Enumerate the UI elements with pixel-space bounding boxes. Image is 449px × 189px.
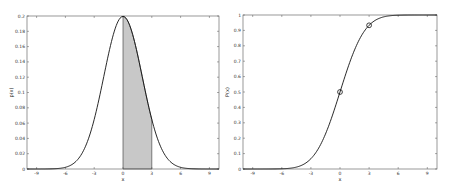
pdf-plot: -9-6-3036900.020.040.060.080.10.120.140.… [8, 14, 219, 183]
y-tick-label: 0.1 [18, 90, 25, 95]
x-tick-label: -6 [280, 171, 285, 176]
y-tick-label: 0.8 [234, 43, 241, 48]
x-axis-label: x [122, 176, 125, 182]
y-tick-label: 0.04 [15, 136, 25, 141]
x-tick-label: 9 [208, 171, 211, 176]
y-axis-label: p(x) [8, 87, 15, 97]
y-tick-label: 0.14 [15, 59, 25, 64]
y-tick-label: 1 [238, 13, 241, 18]
curve-line [243, 15, 437, 169]
cdf-plot: -9-6-3036900.10.20.30.40.50.60.70.80.91x… [224, 13, 437, 183]
x-axis-label: x [339, 176, 342, 182]
x-tick-label: 6 [397, 171, 400, 176]
y-tick-label: 0.7 [234, 59, 241, 64]
y-tick-label: 0.9 [234, 28, 241, 33]
y-tick-label: 0.5 [234, 90, 241, 95]
x-tick-label: 6 [179, 171, 182, 176]
x-tick-label: 3 [150, 171, 153, 176]
x-tick-label: 9 [426, 171, 429, 176]
x-tick-label: -6 [63, 171, 68, 176]
y-tick-label: 0.4 [234, 105, 241, 110]
y-tick-label: 0.02 [15, 151, 25, 156]
y-tick-label: 0.1 [234, 151, 241, 156]
y-tick-label: 0.3 [234, 120, 241, 125]
y-tick-label: 0.08 [15, 105, 25, 110]
y-tick-label: 0.16 [15, 44, 25, 49]
y-tick-label: 0 [238, 167, 241, 172]
x-tick-label: -3 [92, 171, 97, 176]
y-tick-label: 0.2 [18, 14, 25, 19]
x-tick-label: 3 [368, 171, 371, 176]
y-tick-label: 0.2 [234, 136, 241, 141]
y-tick-label: 0 [22, 167, 25, 172]
shaded-area [123, 16, 152, 169]
chart-figure: -9-6-3036900.020.040.060.080.10.120.140.… [0, 0, 449, 189]
y-tick-label: 0.18 [15, 29, 25, 34]
x-tick-label: -9 [250, 171, 255, 176]
y-tick-label: 0.12 [15, 75, 25, 80]
y-axis-label: P(x) [224, 87, 230, 97]
x-tick-label: -9 [34, 171, 39, 176]
y-tick-label: 0.6 [234, 74, 241, 79]
x-tick-label: -3 [309, 171, 314, 176]
y-tick-label: 0.06 [15, 121, 25, 126]
